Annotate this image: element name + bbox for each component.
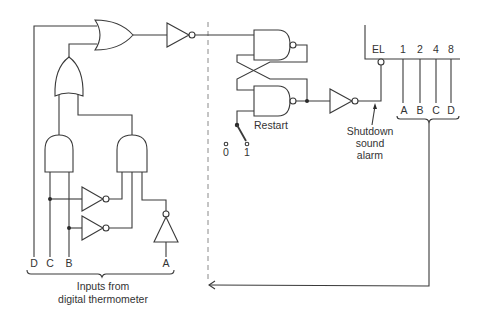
weight-label-1: 1	[400, 43, 406, 55]
nand-top-bubble	[290, 42, 296, 48]
wire-restart	[237, 111, 254, 124]
inverter-top	[167, 23, 189, 47]
weight-label-8: 8	[448, 43, 454, 55]
bcd-label-a: A	[400, 104, 407, 116]
enable-bubble	[378, 59, 384, 65]
alarm-label-line2: sound	[356, 137, 385, 149]
input-label-b: B	[65, 257, 72, 269]
or-gate-top	[95, 20, 133, 50]
logic-diagram: D C B A Inputs from digital thermometer …	[0, 0, 485, 316]
alarm-label-line3: alarm	[357, 149, 384, 161]
inverter-c-bubble	[103, 196, 109, 202]
junction-b	[67, 226, 71, 230]
weight-label-2: 2	[417, 43, 423, 55]
switch-label-1: 1	[244, 146, 250, 158]
wire-not-c-to-and	[109, 172, 122, 199]
bcd-label-b: B	[416, 104, 423, 116]
bcd-brace	[397, 116, 459, 122]
bcd-label-d: D	[447, 104, 455, 116]
wire-lower-or-to-top-or	[69, 44, 97, 57]
inputs-caption-line1: Inputs from	[77, 280, 130, 292]
restart-switch-lever[interactable]	[237, 125, 246, 141]
junction-c	[48, 197, 52, 201]
alarm-pointer-arrowhead	[373, 103, 377, 109]
inverter-output-bubble	[352, 98, 358, 104]
inverter-output	[330, 89, 352, 113]
inverter-c	[82, 187, 103, 211]
inverter-b-bubble	[103, 225, 109, 231]
input-label-d: D	[30, 257, 38, 269]
junction-latch-output	[305, 99, 309, 103]
or-gate-lower	[55, 57, 83, 96]
inputs-brace	[27, 270, 174, 277]
input-label-a: A	[162, 257, 169, 269]
and-gate-right	[117, 135, 147, 172]
switch-label-0: 0	[223, 146, 229, 158]
nand-gate-bottom	[254, 86, 290, 116]
wire-not-a-to-and	[142, 172, 166, 211]
inverter-a	[154, 217, 178, 242]
inverter-b	[82, 216, 103, 240]
wire-right-and-to-or	[78, 94, 132, 135]
wire-not-b-to-and	[109, 172, 132, 228]
inputs-caption-line2: digital thermometer	[58, 293, 148, 305]
inverter-top-bubble	[189, 32, 195, 38]
restart-label: Restart	[254, 119, 288, 131]
wire-return-to-inputs	[209, 122, 429, 286]
enable-label: EL	[372, 43, 385, 55]
wire-to-enable	[358, 65, 381, 101]
input-label-c: C	[46, 257, 54, 269]
nand-bottom-bubble	[290, 98, 296, 104]
weight-label-4: 4	[433, 43, 439, 55]
and-gate-left	[45, 135, 73, 172]
alarm-label-line1: Shutdown	[347, 125, 394, 137]
bcd-label-c: C	[432, 104, 440, 116]
nand-gate-top	[254, 30, 290, 60]
